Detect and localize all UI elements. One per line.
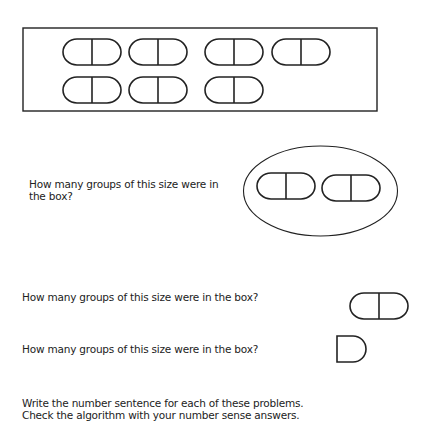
pill-group-ellipse bbox=[244, 146, 398, 236]
pill-icon bbox=[129, 39, 187, 65]
instructions: Write the number sentence for each of th… bbox=[22, 397, 303, 421]
instructions-line-1: Write the number sentence for each of th… bbox=[22, 397, 303, 409]
half-pill-icon bbox=[337, 336, 366, 362]
pill-icon bbox=[205, 77, 263, 103]
question-2: How many groups of this size were in the… bbox=[22, 291, 258, 303]
pill-icon bbox=[257, 173, 315, 199]
pill-icon bbox=[63, 39, 121, 65]
pill-icon bbox=[322, 175, 380, 201]
instructions-line-2: Check the algorithm with your number sen… bbox=[22, 409, 303, 421]
single-pill-icon bbox=[350, 293, 408, 319]
pill-icon bbox=[272, 39, 330, 65]
pill-icon bbox=[63, 77, 121, 103]
pill-box bbox=[23, 28, 377, 111]
pill-icon bbox=[129, 77, 187, 103]
question-1: How many groups of this size were in the… bbox=[29, 178, 218, 202]
question-1-line-1: How many groups of this size were in bbox=[29, 178, 218, 190]
question-1-line-2: the box? bbox=[29, 190, 218, 202]
question-3: How many groups of this size were in the… bbox=[22, 343, 258, 355]
pill-icon bbox=[205, 39, 263, 65]
